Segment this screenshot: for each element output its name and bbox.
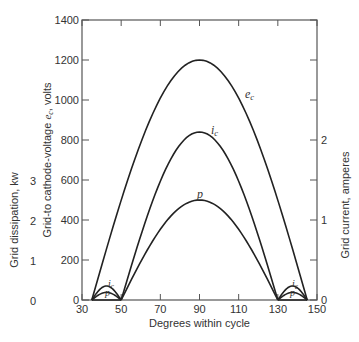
y-tick-label: 1200	[55, 54, 79, 66]
x-tick-label: 110	[230, 303, 248, 315]
y-tick-label: 0	[73, 294, 79, 306]
dissipation-tick-label: 2	[30, 215, 36, 227]
y-axis-title-voltage: Grid-to cathode-voltage ec, volts	[41, 82, 55, 238]
current-tick-label: 0	[321, 294, 327, 306]
curve-p	[121, 200, 278, 300]
y-tick-label: 800	[61, 134, 79, 146]
current-tick-label: 1	[321, 214, 327, 226]
current-tick-label: 2	[321, 134, 327, 146]
x-tick-label: 50	[115, 303, 127, 315]
curve-label: ic	[211, 123, 218, 138]
dissipation-tick-label: 1	[30, 255, 36, 267]
chart: 3050709011013015002004006008001000120014…	[0, 0, 359, 342]
curve-label: p	[289, 287, 295, 298]
plot-frame	[82, 20, 317, 300]
curve-label: ec	[245, 87, 254, 102]
curve-e_c	[92, 60, 307, 300]
curve-label: p	[196, 187, 203, 201]
curve-label: p	[104, 287, 110, 298]
curves	[92, 60, 307, 300]
x-tick-label: 130	[269, 303, 287, 315]
dissipation-tick-label: 0	[30, 295, 36, 307]
dissipation-tick-label: 3	[30, 175, 36, 187]
axis-labels: 3050709011013015002004006008001000120014…	[8, 14, 351, 329]
y-tick-label: 1000	[55, 94, 79, 106]
curve-i_c	[121, 132, 278, 300]
y-tick-label: 600	[61, 174, 79, 186]
x-tick-label: 90	[193, 303, 205, 315]
y-tick-label: 400	[61, 214, 79, 226]
x-tick-label: 70	[154, 303, 166, 315]
axis-ticks	[82, 20, 317, 300]
y-tick-label: 1400	[55, 14, 79, 26]
y-axis-title-current: Grid current, amperes	[339, 151, 351, 258]
y-tick-label: 200	[61, 254, 79, 266]
x-axis-title: Degrees within cycle	[149, 317, 250, 329]
y-axis-title-dissipation: Grid dissipation, kw	[8, 172, 20, 267]
